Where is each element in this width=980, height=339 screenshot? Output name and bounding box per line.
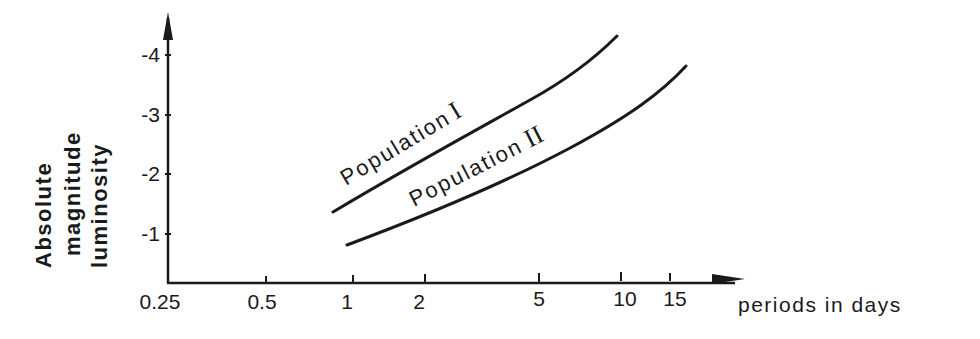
y-tick-label: -4 xyxy=(141,43,160,66)
x-axis-title: periods in days xyxy=(738,293,902,316)
y-tick-label: -2 xyxy=(141,162,160,185)
x-tick-label: 1 xyxy=(341,290,353,313)
y-axis-title-line: luminosity xyxy=(87,143,112,268)
y-axis-title-line: magnitude xyxy=(60,131,85,256)
x-axis: 0.25 0.5 1 2 5 10 15 periods in days xyxy=(140,272,902,316)
y-axis: -4 -3 -2 -1 xyxy=(141,12,173,283)
x-tick-label: 15 xyxy=(663,287,686,310)
y-axis-arrow-icon xyxy=(163,12,173,40)
x-tick-label: 0.5 xyxy=(247,290,276,313)
y-tick-label: -3 xyxy=(141,103,160,126)
y-tick-label: -1 xyxy=(141,222,160,245)
x-tick-label: 5 xyxy=(533,287,545,310)
series-population-i-line xyxy=(333,36,617,212)
x-tick-label: 2 xyxy=(413,290,425,313)
y-axis-title-line: Absolute xyxy=(31,162,56,268)
series-label-numeral: II xyxy=(519,120,548,154)
x-tick-label: 10 xyxy=(613,287,636,310)
y-axis-title: Absolute magnitude luminosity xyxy=(31,131,112,268)
x-tick-label: 0.25 xyxy=(140,290,181,313)
chart: -4 -3 -2 -1 Absolute magnitude luminosit… xyxy=(0,0,980,339)
